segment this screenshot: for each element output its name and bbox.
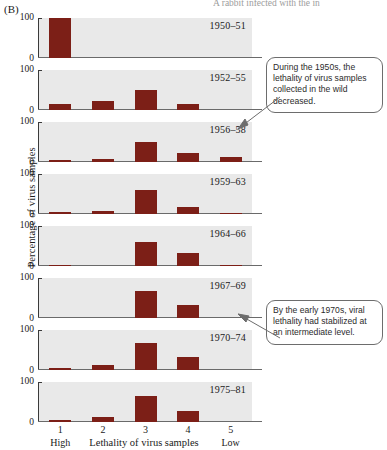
panel-period-label: 1964–66 — [210, 228, 246, 239]
x-tick-label: 3 — [131, 424, 161, 435]
chart-panel: 10001952–55 — [24, 68, 252, 118]
bar — [135, 291, 157, 318]
top-clipped-caption: A rabbit infected with the in — [213, 0, 387, 9]
chart-panel: 10001950–51 — [24, 16, 252, 66]
bar — [135, 142, 157, 162]
bar — [49, 368, 71, 370]
y-tick-label-100: 100 — [10, 221, 34, 230]
chart-panel-stack: 10001950–5110001952–5510001956–581000195… — [24, 16, 252, 430]
x-tick-label: 2 — [88, 424, 118, 435]
y-tick-label-100: 100 — [10, 377, 34, 386]
chart-panel: 10001975–81 — [24, 380, 252, 430]
y-tick-label-0: 0 — [10, 418, 34, 427]
y-tick-label-0: 0 — [10, 366, 34, 375]
chart-panel: 10001964–66 — [24, 224, 252, 274]
y-tick-label-0: 0 — [10, 210, 34, 219]
y-tick-label-0: 0 — [10, 158, 34, 167]
bar — [177, 305, 199, 318]
chart-panel: 10001970–74 — [24, 328, 252, 378]
bar — [49, 160, 71, 162]
panel-period-label: 1975–81 — [210, 384, 246, 395]
y-tick-label-100: 100 — [10, 13, 34, 22]
bar — [49, 104, 71, 110]
bar — [49, 212, 71, 214]
bar — [135, 242, 157, 266]
bar — [177, 411, 199, 422]
bar — [92, 365, 114, 370]
callout-tail-1 — [236, 95, 282, 131]
chart-panel: 10001959–63 — [24, 172, 252, 222]
bar — [177, 207, 199, 214]
bar — [220, 157, 242, 162]
bar — [220, 213, 242, 214]
y-tick-label-100: 100 — [10, 117, 34, 126]
y-tick-label-100: 100 — [10, 273, 34, 282]
bar — [177, 253, 199, 266]
bar — [49, 18, 71, 58]
bar — [92, 101, 114, 110]
y-tick-label-100: 100 — [10, 65, 34, 74]
bar — [92, 159, 114, 162]
bar — [135, 90, 157, 110]
x-tick-label: 4 — [173, 424, 203, 435]
chart-panel: 10001967–69 — [24, 276, 252, 326]
annotation-callout-1970s: By the early 1970s, viral lethality had … — [266, 300, 383, 345]
bar — [135, 396, 157, 422]
y-tick-label-0: 0 — [10, 262, 34, 271]
y-tick-label-0: 0 — [10, 106, 34, 115]
x-tick-label: 5 — [216, 424, 246, 435]
bar — [135, 190, 157, 214]
bar — [92, 417, 114, 422]
bar — [177, 104, 199, 110]
bar — [49, 420, 71, 422]
bar — [177, 357, 199, 370]
y-tick-label-0: 0 — [10, 54, 34, 63]
panel-period-label: 1967–69 — [210, 280, 246, 291]
bar — [220, 265, 242, 266]
callout-tail-2 — [236, 312, 282, 342]
annotation-callout-1950s: During the 1950s, the lethality of virus… — [266, 57, 383, 113]
panel-period-label: 1952–55 — [210, 72, 246, 83]
x-tick-label: 1 — [45, 424, 75, 435]
bar — [135, 343, 157, 370]
bar — [49, 265, 71, 266]
chart-panel: 10001956–58 — [24, 120, 252, 170]
bar — [177, 153, 199, 162]
y-tick-label-100: 100 — [10, 325, 34, 334]
x-axis-title: Lethality of virus samples — [24, 437, 264, 448]
panel-period-label: 1950–51 — [210, 20, 246, 31]
y-tick-label-0: 0 — [10, 314, 34, 323]
y-tick-label-100: 100 — [10, 169, 34, 178]
panel-period-label: 1959–63 — [210, 176, 246, 187]
bar — [92, 211, 114, 214]
